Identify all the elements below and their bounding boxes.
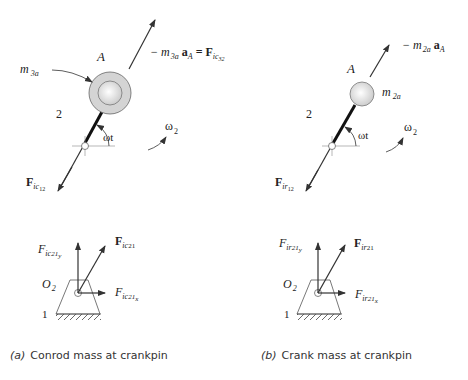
crank-link — [85, 110, 103, 143]
link-label: 2 — [56, 107, 62, 121]
f-arrow — [78, 246, 105, 293]
angle-arc — [345, 127, 356, 146]
inertia-equation: − m3aaA = Fic32 — [150, 45, 225, 62]
crank-inertia-diagram: A 2 m3a − m3aaA = Fic32 ωt ω2 Fic12 Fic2… — [0, 0, 468, 380]
panel-b: A 2 m2a − m2aaA ωt ω2 Fir12 Fir21y Fir21… — [261, 38, 445, 362]
omega-label: ω2 — [404, 120, 417, 137]
caption-b: (b)Crank mass at crankpin — [261, 349, 412, 362]
mass-label: m2a — [382, 85, 401, 101]
shaft-force-arrow — [306, 170, 318, 191]
angle-label: ωt — [358, 129, 368, 141]
link-label: 2 — [306, 107, 312, 121]
omega-arrow — [148, 137, 166, 150]
fx-label: Fir21x — [354, 287, 379, 305]
angle-label: ωt — [103, 131, 113, 143]
mass-pointer — [52, 70, 92, 82]
inertia-arrow — [370, 45, 389, 77]
fy-label: Fir21y — [278, 236, 303, 254]
shaft-force-label: Fir12 — [275, 175, 294, 192]
ground-fbd-b — [297, 243, 345, 320]
point-a-label: A — [346, 61, 355, 76]
mass-inner-ball — [98, 81, 122, 105]
o2-label: O2 — [283, 277, 297, 293]
shaft-force-label: Fic12 — [26, 175, 45, 192]
fy-label: Fic21y — [37, 242, 62, 260]
point-a-label: A — [96, 49, 105, 64]
ground-frame — [297, 280, 341, 314]
f-label: Fir21 — [354, 236, 374, 252]
caption-a: (a)Conrod mass at crankpin — [10, 349, 168, 362]
ground-hatch — [297, 314, 342, 320]
panel-a: A 2 m3a − m3aaA = Fic32 ωt ω2 Fic12 Fic2… — [10, 20, 225, 362]
mass-label: m3a — [20, 62, 39, 78]
omega-label: ω2 — [165, 119, 178, 136]
ground-fbd-a — [56, 243, 105, 320]
ground-hatch — [56, 314, 101, 320]
omega-arrow — [386, 138, 403, 152]
shaft-force-arrow — [58, 167, 72, 191]
f-label: Fic21 — [115, 234, 136, 250]
pivot-circle — [82, 143, 89, 150]
crank-link — [332, 105, 355, 145]
o2-label: O2 — [42, 277, 56, 293]
mass-ball — [350, 82, 374, 106]
inertia-equation: − m2aaA — [402, 38, 445, 54]
frame-label: 1 — [284, 308, 290, 320]
pivot-circle — [329, 143, 336, 150]
fx-label: Fic21x — [114, 285, 139, 303]
frame-label: 1 — [42, 308, 48, 320]
